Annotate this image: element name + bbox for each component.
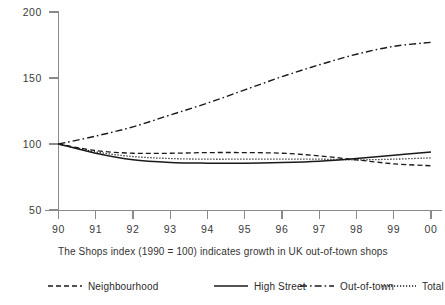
series-line-out-of-town	[59, 42, 432, 144]
y-tick-label-100: 100	[23, 138, 42, 150]
legend-swatch-dotted-icon	[382, 281, 416, 291]
legend-swatch-dash-dot-icon	[300, 281, 334, 291]
x-tick-label-95: 95	[238, 223, 251, 235]
x-tick-label-00: 00	[425, 223, 438, 235]
x-tick-label-90: 90	[52, 223, 65, 235]
legend-item-high-street[interactable]: High Street	[214, 276, 306, 296]
chart-plot-area: 20015010050 9091929394959697989900	[0, 0, 445, 305]
x-tick-group: 9091929394959697989900	[52, 211, 437, 236]
legend-label: Neighbourhood	[88, 281, 158, 292]
y-tick-label-150: 150	[23, 72, 42, 84]
x-axis: 9091929394959697989900	[45, 211, 442, 236]
legend-item-out-of-town[interactable]: Out-of-town	[300, 276, 394, 296]
legend-item-neighbourhood[interactable]: Neighbourhood	[48, 276, 158, 296]
shops-index-line-chart: 20015010050 9091929394959697989900 The S…	[0, 0, 445, 305]
y-tick-label-50: 50	[29, 204, 42, 216]
chart-legend: NeighbourhoodHigh StreetOut-of-townTotal	[0, 276, 445, 300]
data-series-group	[59, 42, 432, 165]
x-tick-label-93: 93	[164, 223, 177, 235]
legend-item-total[interactable]: Total	[382, 276, 444, 296]
x-tick-label-98: 98	[350, 223, 363, 235]
y-axis: 20015010050	[23, 6, 59, 216]
legend-swatch-solid-icon	[214, 281, 248, 291]
x-tick-label-97: 97	[313, 223, 326, 235]
series-line-high-street	[59, 144, 432, 163]
legend-label: High Street	[254, 281, 306, 292]
x-tick-label-96: 96	[276, 223, 289, 235]
legend-swatch-dashed-icon	[48, 281, 82, 291]
legend-label: Total	[422, 281, 444, 292]
y-tick-group: 20015010050	[23, 6, 59, 216]
x-tick-label-92: 92	[127, 223, 140, 235]
x-tick-label-99: 99	[387, 223, 400, 235]
x-tick-label-91: 91	[89, 223, 102, 235]
chart-caption: The Shops index (1990 = 100) indicates g…	[58, 246, 388, 257]
x-tick-label-94: 94	[201, 223, 214, 235]
y-tick-label-200: 200	[23, 6, 42, 18]
